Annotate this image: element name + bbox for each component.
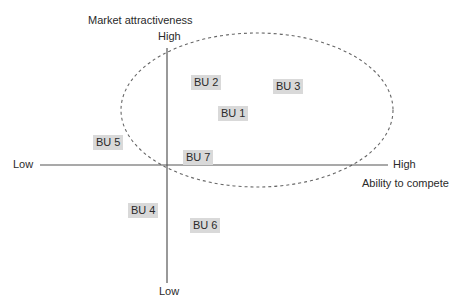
portfolio-matrix (0, 0, 461, 308)
core-portfolio-ellipse (121, 33, 393, 187)
bu-1-label: BU 1 (218, 106, 248, 121)
bu-4-label: BU 4 (128, 203, 158, 218)
bu-2-label: BU 2 (191, 75, 221, 90)
y-axis-high-label: High (158, 30, 181, 43)
x-axis-high-label: High (393, 158, 416, 171)
bu-5-label: BU 5 (93, 135, 123, 150)
x-axis-low-label: Low (13, 158, 33, 171)
bu-7-label: BU 7 (183, 150, 213, 165)
x-axis-title: Ability to compete (362, 177, 449, 190)
y-axis-low-label: Low (159, 285, 179, 298)
bu-3-label: BU 3 (273, 79, 303, 94)
bu-6-label: BU 6 (190, 218, 220, 233)
y-axis-title: Market attractiveness (88, 14, 193, 27)
